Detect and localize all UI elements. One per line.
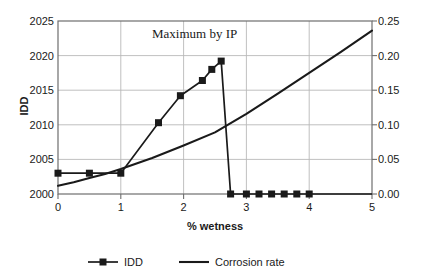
x-tick-5: 5 xyxy=(357,201,387,213)
legend-label-idd: IDD xyxy=(124,256,143,268)
legend-marker-square-line-icon xyxy=(88,256,118,268)
y-left-tick-2020: 2020 xyxy=(0,50,54,62)
chart-annotation: Maximum by IP xyxy=(152,26,237,42)
right-axis-ticks xyxy=(372,21,377,194)
x-tick-0: 0 xyxy=(43,201,73,213)
y-right-tick-025: 0.25 xyxy=(378,15,418,27)
y-right-tick-005: 0.05 xyxy=(378,153,418,165)
legend-item-corrosion-rate[interactable]: Corrosion rate xyxy=(179,256,285,268)
chart-legend: IDD Corrosion rate xyxy=(60,250,390,274)
y-right-tick-020: 0.20 xyxy=(378,50,418,62)
y-right-tick-015: 0.15 xyxy=(378,84,418,96)
legend-marker-line-icon xyxy=(179,256,209,268)
y-left-tick-2025: 2025 xyxy=(0,15,54,27)
x-tick-1: 1 xyxy=(106,201,136,213)
y-left-tick-2000: 2000 xyxy=(0,188,54,200)
y-right-tick-000: 0.00 xyxy=(378,188,418,200)
x-axis-title: % wetness xyxy=(150,220,280,232)
plot-area xyxy=(0,0,442,280)
x-tick-3: 3 xyxy=(231,201,261,213)
y-axis-left-title: IDD xyxy=(18,76,30,136)
legend-label-corrosion-rate: Corrosion rate xyxy=(215,256,285,268)
x-tick-4: 4 xyxy=(294,201,324,213)
chart-figure: Maximum by IP 2025 2020 2015 2010 2005 2… xyxy=(0,0,442,280)
y-right-tick-010: 0.10 xyxy=(378,119,418,131)
y-left-tick-2005: 2005 xyxy=(0,153,54,165)
legend-item-idd[interactable]: IDD xyxy=(88,256,143,268)
x-tick-2: 2 xyxy=(169,201,199,213)
plot-background xyxy=(58,21,372,194)
